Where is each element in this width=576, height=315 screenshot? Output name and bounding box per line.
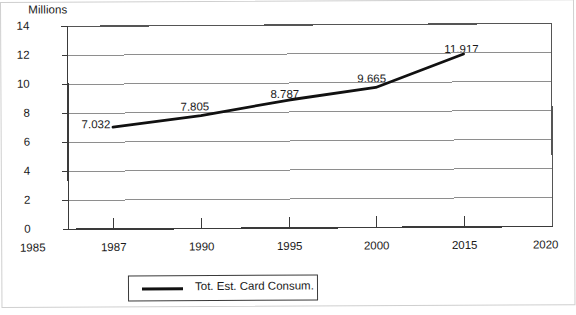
chart-plot-stage: Millions 14 12 10 8 6 4 2 0 1985 1987 19… — [0, 0, 576, 315]
plot-area — [0, 0, 576, 315]
legend-label-tot-est-card-consum: Tot. Est. Card Consum. — [195, 280, 314, 293]
gridlines — [68, 52, 553, 200]
legend-line-swatch — [142, 287, 183, 290]
chart-legend: Tot. Est. Card Consum. — [128, 275, 318, 302]
series-line-tot-est-card-consum — [113, 54, 464, 127]
